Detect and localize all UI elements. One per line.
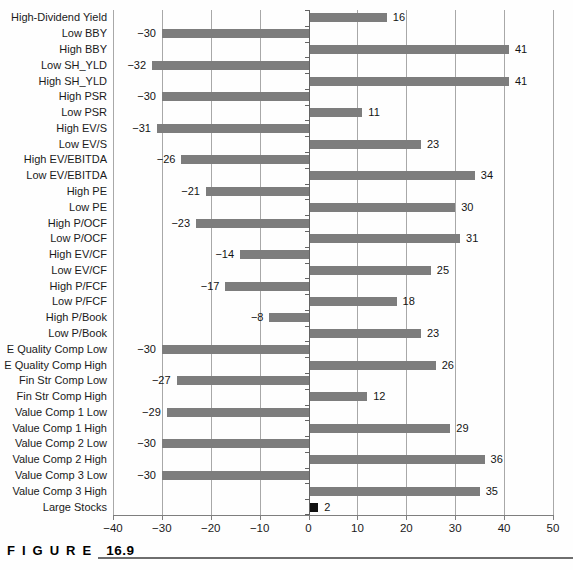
category-label: Fin Str Comp High — [0, 389, 107, 405]
category-label: Low PSR — [0, 105, 107, 121]
zero-axis-tick — [305, 73, 309, 74]
bar — [309, 234, 461, 243]
caption-rule — [98, 557, 573, 559]
category-label: High EV/CF — [0, 247, 107, 263]
bar — [309, 77, 509, 86]
x-tick-label: −30 — [152, 522, 172, 534]
category-label: High-Dividend Yield — [0, 10, 107, 26]
category-label: High P/FCF — [0, 278, 107, 294]
zero-axis-tick — [305, 468, 309, 469]
bar-large-stocks — [309, 503, 319, 512]
x-tick-label: −20 — [201, 522, 221, 534]
gridline — [113, 10, 114, 515]
category-label: High PE — [0, 184, 107, 200]
category-label: Low EV/EBITDA — [0, 168, 107, 184]
category-label: High PSR — [0, 89, 107, 105]
x-tick-label: 40 — [498, 522, 511, 534]
zero-axis-tick — [305, 263, 309, 264]
category-label: High EV/EBITDA — [0, 152, 107, 168]
value-label: 26 — [442, 359, 454, 372]
bar — [309, 203, 456, 212]
x-tick-label: 50 — [547, 522, 560, 534]
zero-axis-tick — [305, 26, 309, 27]
zero-axis-tick — [305, 310, 309, 311]
category-label: High P/OCF — [0, 215, 107, 231]
bar — [152, 61, 308, 70]
zero-axis-tick — [305, 436, 309, 437]
gridline — [357, 10, 358, 515]
category-label: E Quality Comp Low — [0, 341, 107, 357]
x-tick-label: 0 — [305, 522, 311, 534]
zero-axis-tick — [305, 278, 309, 279]
value-label: −14 — [215, 248, 234, 261]
zero-axis-tick — [305, 405, 309, 406]
category-label: High SH_YLD — [0, 73, 107, 89]
value-label: 16 — [393, 11, 405, 24]
x-tick-label: 30 — [449, 522, 462, 534]
value-label: 23 — [427, 327, 439, 340]
value-label: −29 — [142, 406, 161, 419]
bar — [309, 392, 368, 401]
bar — [309, 487, 480, 496]
category-label: Low BBY — [0, 26, 107, 42]
category-label: Fin Str Comp Low — [0, 373, 107, 389]
bar — [162, 29, 309, 38]
category-label: High EV/S — [0, 120, 107, 136]
bar — [309, 266, 431, 275]
value-label: −17 — [201, 280, 220, 293]
value-label: −30 — [137, 27, 156, 40]
value-label: 23 — [427, 138, 439, 151]
zero-axis-tick — [305, 136, 309, 137]
bar — [162, 92, 309, 101]
bar — [309, 140, 421, 149]
value-label: 18 — [403, 295, 415, 308]
value-label: 29 — [456, 422, 468, 435]
value-label: −30 — [137, 343, 156, 356]
zero-axis-tick — [305, 514, 309, 515]
x-tick-label: −40 — [103, 522, 123, 534]
category-label: Low P/OCF — [0, 231, 107, 247]
category-label: Low EV/CF — [0, 263, 107, 279]
bar — [309, 108, 363, 117]
x-tick-label: 10 — [351, 522, 364, 534]
category-label: High P/Book — [0, 310, 107, 326]
value-label: −27 — [152, 374, 171, 387]
value-label: 31 — [466, 232, 478, 245]
bar — [240, 250, 308, 259]
zero-axis-tick — [305, 294, 309, 295]
zero-axis-tick — [305, 168, 309, 169]
bar — [206, 187, 309, 196]
bar — [162, 439, 309, 448]
x-axis-tick-labels: −40−30−20−1001020304050 — [113, 522, 553, 537]
zero-axis — [309, 10, 310, 515]
zero-axis-tick — [305, 420, 309, 421]
plot-area: 16−3041−3241−3011−3123−2634−2130−2331−14… — [113, 10, 553, 515]
zero-axis-tick — [305, 452, 309, 453]
value-label: −23 — [171, 217, 190, 230]
value-label: 25 — [437, 264, 449, 277]
category-label: E Quality Comp High — [0, 357, 107, 373]
bar — [162, 345, 309, 354]
category-label: Value Comp 2 Low — [0, 436, 107, 452]
zero-axis-tick — [305, 105, 309, 106]
zero-axis-tick — [305, 357, 309, 358]
bar — [309, 329, 421, 338]
bar — [309, 297, 397, 306]
category-label: Value Comp 1 High — [0, 420, 107, 436]
category-label: Low EV/S — [0, 136, 107, 152]
category-label: High BBY — [0, 42, 107, 58]
value-label: 41 — [515, 75, 527, 88]
bar — [181, 155, 308, 164]
value-label: −32 — [127, 59, 146, 72]
value-label: −26 — [157, 153, 176, 166]
value-label: −30 — [137, 90, 156, 103]
zero-axis-tick — [305, 89, 309, 90]
category-label: Large Stocks — [0, 499, 107, 515]
zero-axis-tick — [305, 389, 309, 390]
bar — [309, 361, 436, 370]
bar — [162, 471, 309, 480]
zero-axis-tick — [305, 152, 309, 153]
bar — [269, 313, 308, 322]
category-label: Value Comp 2 High — [0, 452, 107, 468]
zero-axis-tick — [305, 42, 309, 43]
